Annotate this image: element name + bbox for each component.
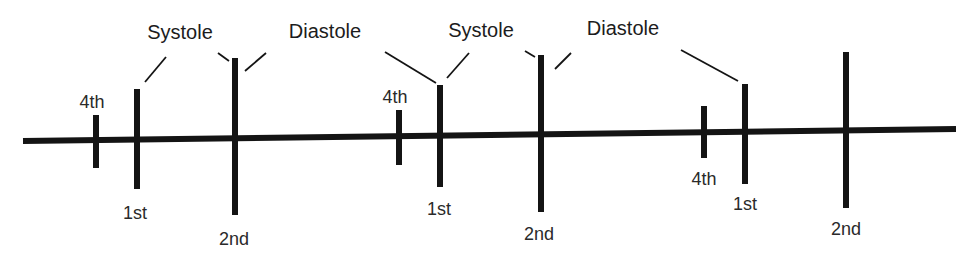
tick-cycle1-2nd bbox=[232, 58, 238, 215]
phase-label-diastole: Diastole bbox=[289, 20, 361, 42]
phase-label-systole: Systole bbox=[147, 21, 213, 43]
sound-label-1st: 1st bbox=[123, 203, 147, 223]
sound-label-2nd: 2nd bbox=[831, 219, 861, 239]
tick-cycle2-2nd bbox=[538, 55, 544, 212]
tick-cycle3-4th bbox=[701, 106, 707, 158]
sound-label-4th: 4th bbox=[691, 169, 716, 189]
tick-cycle2-4th bbox=[396, 110, 402, 165]
phase-label-diastole: Diastole bbox=[587, 17, 659, 39]
sound-label-2nd: 2nd bbox=[524, 224, 554, 244]
tick-cycle1-4th bbox=[93, 115, 99, 168]
sound-label-1st: 1st bbox=[427, 199, 451, 219]
sound-label-2nd: 2nd bbox=[219, 229, 249, 249]
heart-sound-timing-diagram: SystoleDiastoleSystoleDiastole 4th1st2nd… bbox=[0, 0, 971, 256]
sound-label-1st: 1st bbox=[733, 194, 757, 214]
tick-cycle3-2nd bbox=[843, 52, 849, 208]
sound-label-4th: 4th bbox=[79, 92, 104, 112]
tick-cycle1-1st bbox=[134, 89, 140, 189]
sound-label-4th: 4th bbox=[382, 87, 407, 107]
tick-cycle3-1st bbox=[742, 84, 748, 184]
phase-label-systole: Systole bbox=[448, 19, 514, 41]
tick-cycle2-1st bbox=[437, 85, 443, 187]
